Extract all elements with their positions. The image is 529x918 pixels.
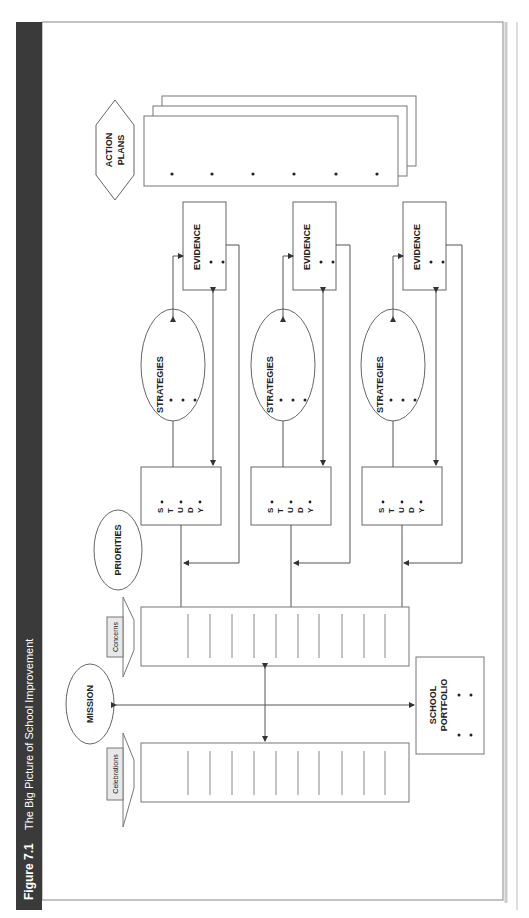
svg-text:EVIDENCE: EVIDENCE (412, 224, 422, 270)
svg-text:T: T (166, 508, 175, 513)
svg-text:STRATEGIES: STRATEGIES (265, 356, 275, 413)
svg-text:EVIDENCE: EVIDENCE (192, 224, 202, 270)
figure-canvas: Figure 7.1 The Big Picture of School Imp… (0, 0, 529, 918)
figure-title: The Big Picture of School Improvement (23, 639, 35, 830)
svg-text:SCHOOL: SCHOOL (428, 685, 438, 724)
svg-text:PORTFOLIO: PORTFOLIO (439, 679, 449, 732)
svg-text:Concerns: Concerns (112, 622, 119, 652)
svg-text:Y: Y (417, 507, 426, 513)
svg-text:MISSION: MISSION (85, 685, 95, 723)
evidence-box (183, 202, 226, 290)
svg-text:U: U (397, 507, 406, 513)
study-box (141, 467, 221, 525)
svg-text:ACTION: ACTION (104, 133, 114, 168)
svg-text:S: S (266, 507, 275, 513)
svg-text:U: U (176, 507, 185, 513)
svg-text:Y: Y (306, 507, 315, 513)
svg-text:Y: Y (196, 507, 205, 513)
svg-text:D: D (186, 507, 195, 513)
svg-text:T: T (387, 508, 396, 513)
school-portfolio-box: SCHOOL PORTFOLIO (416, 657, 484, 754)
strategies-ellipse (141, 309, 205, 421)
svg-text:D: D (296, 507, 305, 513)
svg-text:U: U (286, 507, 295, 513)
svg-text:PLANS: PLANS (116, 135, 126, 166)
svg-text:PRIORITIES: PRIORITIES (113, 524, 123, 575)
svg-text:STRATEGIES: STRATEGIES (375, 356, 385, 413)
svg-text:S: S (377, 507, 386, 513)
figure-number: Figure 7.1 (22, 843, 36, 900)
priorities-ellipse: PRIORITIES (94, 510, 142, 590)
svg-text:T: T (276, 508, 285, 513)
celebrations-box (141, 743, 409, 802)
svg-text:STRATEGIES: STRATEGIES (155, 356, 165, 413)
mission-ellipse: MISSION (66, 664, 114, 744)
concerns-box (141, 607, 409, 666)
svg-text:Celebrations: Celebrations (112, 754, 119, 794)
svg-text:EVIDENCE: EVIDENCE (302, 224, 312, 270)
action-plans-sheets (144, 96, 416, 186)
svg-text:S: S (156, 507, 165, 513)
svg-text:D: D (407, 507, 416, 513)
